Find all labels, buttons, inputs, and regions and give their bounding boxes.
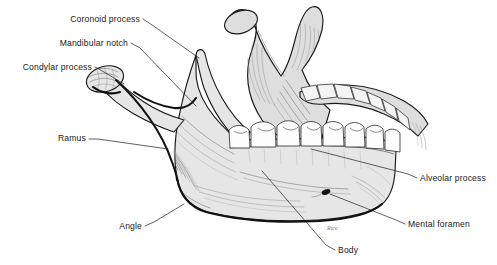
label-body: Body [338, 245, 359, 255]
near-tooth-6 [345, 123, 365, 148]
near-tooth-7 [366, 125, 384, 149]
near-tooth-2 [251, 122, 276, 147]
mandible-illustration: Rice Coronoid process Mandibular notch C… [0, 0, 497, 265]
far-tooth-2 [317, 84, 337, 99]
label-ramus: Ramus [58, 133, 86, 143]
artist-signature: Rice [326, 225, 338, 231]
label-angle: Angle [119, 221, 142, 231]
label-alveolar-process: Alveolar process [420, 173, 486, 183]
near-tooth-4 [301, 122, 322, 147]
leader-coronoid-process [143, 19, 199, 58]
leader-angle [145, 204, 184, 226]
label-mental-foramen: Mental foramen [408, 219, 470, 229]
far-condylar-head [221, 6, 260, 38]
label-mandibular-notch: Mandibular notch [60, 38, 128, 48]
leader-ramus [89, 139, 168, 149]
mandible-figure: Rice Coronoid process Mandibular notch C… [0, 0, 497, 265]
near-tooth-3 [277, 121, 300, 146]
label-coronoid-process: Coronoid process [70, 14, 140, 24]
near-tooth-5 [323, 122, 344, 147]
near-tooth-8 [385, 129, 400, 152]
label-condylar-process: Condylar process [23, 62, 92, 72]
near-tooth-1 [229, 126, 250, 149]
